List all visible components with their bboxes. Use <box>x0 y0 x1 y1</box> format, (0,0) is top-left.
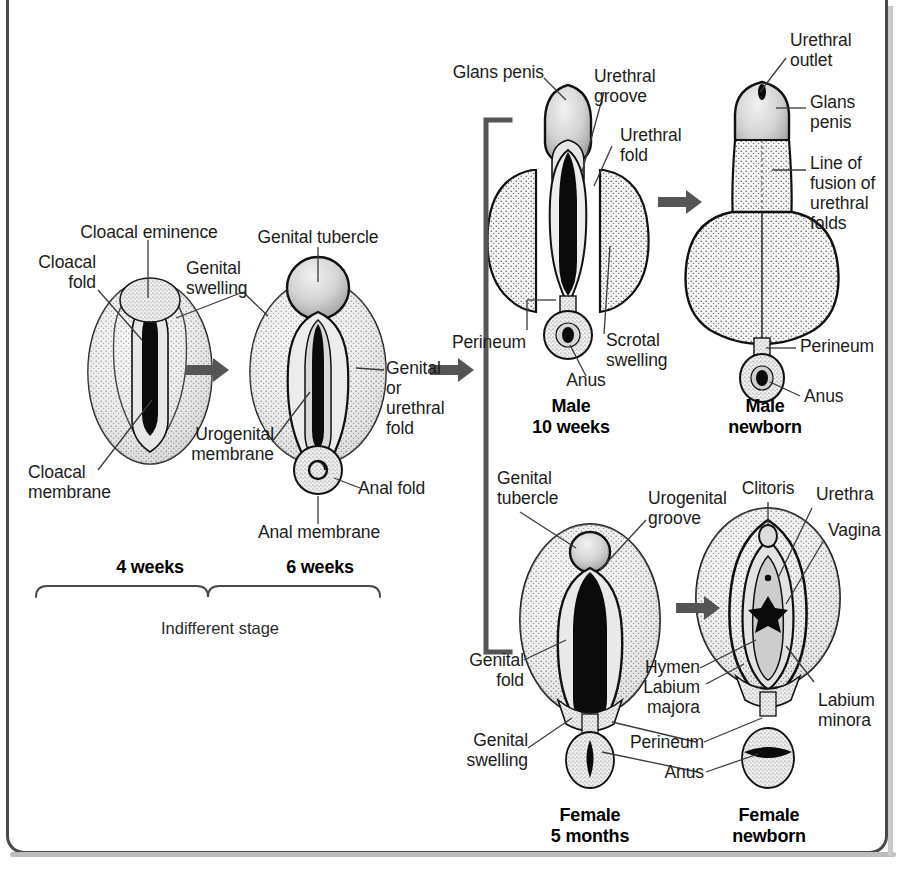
label-cloacal-membrane: Cloacal membrane <box>28 462 198 502</box>
label-clitoris: Clitoris <box>718 478 818 498</box>
label-perineum-10w: Perineum <box>418 332 526 352</box>
caption-male-10-weeks: Male 10 weeks <box>496 396 646 438</box>
label-anus-10w: Anus <box>540 370 632 390</box>
label-urethra: Urethra <box>816 484 906 504</box>
arrow-4w-to-6w <box>185 358 233 382</box>
label-urethral-fold: Urethral fold <box>620 125 710 165</box>
label-genital-tubercle-5m: Genital tubercle <box>497 468 601 508</box>
label-perineum-newborn: Perineum <box>800 336 904 356</box>
label-perineum-female-newborn: Perineum <box>596 732 704 752</box>
label-urethral-groove: Urethral groove <box>594 66 694 106</box>
indifferent-stage-bracket <box>36 586 380 597</box>
arrow-female-5m-to-newborn <box>676 596 724 620</box>
label-genital-swelling-6w: Genital swelling <box>186 258 298 298</box>
label-genital-swelling-5m: Genital swelling <box>412 730 528 770</box>
label-urethral-outlet: Urethral outlet <box>790 30 894 70</box>
caption-male-newborn: Male newborn <box>690 396 840 438</box>
label-glans-penis-10w: Glans penis <box>418 62 544 82</box>
caption-4-weeks: 4 weeks <box>78 557 222 578</box>
caption-6-weeks: 6 weeks <box>248 557 392 578</box>
label-labium-majora: Labium majora <box>596 677 700 717</box>
label-anus-female-newborn: Anus <box>620 762 704 782</box>
label-cloacal-eminence: Cloacal eminence <box>60 222 238 242</box>
label-cloacal-fold: Cloacal fold <box>0 252 96 292</box>
label-hymen: Hymen <box>612 657 700 677</box>
label-genital-or-urethral-fold: Genital or urethral fold <box>386 358 478 438</box>
label-glans-penis-newborn: Glans penis <box>810 92 900 132</box>
label-indifferent-stage: Indifferent stage <box>106 619 334 638</box>
arrow-male-10w-to-newborn <box>658 190 706 214</box>
label-labium-minora: Labium minora <box>818 690 910 730</box>
label-urogenital-membrane: Urogenital membrane <box>148 424 274 464</box>
caption-female-5-months: Female 5 months <box>515 805 665 847</box>
label-genital-tubercle-6w: Genital tubercle <box>226 227 410 247</box>
label-anal-fold: Anal fold <box>358 478 462 498</box>
label-scrotal-swelling: Scrotal swelling <box>606 330 704 370</box>
label-vagina: Vagina <box>828 520 914 540</box>
label-genital-fold: Genital fold <box>424 650 524 690</box>
caption-female-newborn: Female newborn <box>694 805 844 847</box>
label-line-of-fusion: Line of fusion of urethral folds <box>810 153 910 233</box>
label-anal-membrane: Anal membrane <box>228 522 410 542</box>
